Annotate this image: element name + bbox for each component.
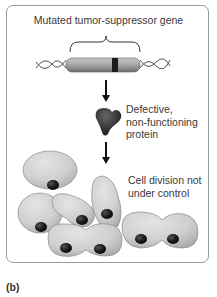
cell-label-line: under control xyxy=(128,187,202,200)
mutation-band xyxy=(112,58,118,72)
diagram-graphics xyxy=(0,0,217,297)
protein-label-line: non-functioning xyxy=(126,116,198,129)
gene-bracket xyxy=(70,36,140,52)
protein-label: Defective, non-functioning protein xyxy=(126,103,198,141)
dna-helix-left xyxy=(36,60,66,69)
figure-label: (b) xyxy=(6,281,19,293)
protein-label-line: protein xyxy=(126,128,198,141)
arrow-gene-to-protein xyxy=(102,80,110,102)
protein-label-line: Defective, xyxy=(126,103,198,116)
mutated-gene-bar xyxy=(66,58,140,72)
cell xyxy=(92,176,121,229)
dna-helix-right xyxy=(140,59,170,69)
uncontrolled-cell-cluster xyxy=(18,151,198,256)
cell xyxy=(23,151,77,190)
cell xyxy=(122,212,198,248)
cell-division-label: Cell division not under control xyxy=(128,174,202,199)
cell-label-line: Cell division not xyxy=(128,174,202,187)
arrow-protein-to-cells xyxy=(102,142,110,164)
cell xyxy=(48,224,122,257)
defective-protein-icon xyxy=(96,108,122,136)
